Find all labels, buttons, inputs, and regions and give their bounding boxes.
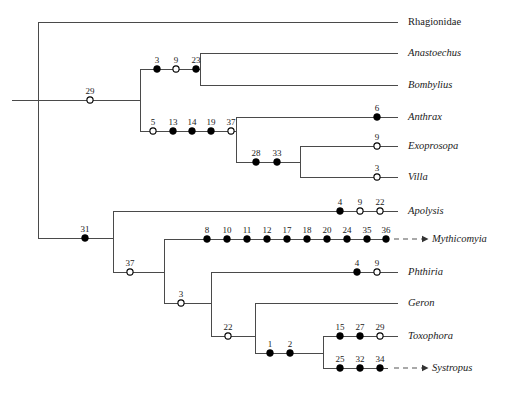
filled-circle-icon [364, 236, 371, 243]
character-node-18[interactable]: 18 [303, 225, 313, 243]
character-number-label: 9 [375, 258, 380, 268]
arrow-head-icon-mythicomyia [422, 236, 429, 242]
filled-circle-icon [354, 269, 361, 276]
taxon-label-villa: Villa [408, 171, 428, 182]
character-number-label: 3 [179, 289, 184, 299]
filled-circle-icon [253, 159, 260, 166]
character-node-9[interactable]: 9 [374, 258, 380, 276]
taxon-label-toxophora: Toxophora [408, 330, 453, 341]
filled-circle-icon [189, 128, 196, 135]
character-number-label: 33 [273, 148, 283, 158]
filled-circle-icon [377, 365, 384, 372]
character-node-29[interactable]: 29 [86, 86, 96, 104]
arrow-head-icon-systropus [422, 365, 429, 371]
character-number-label: 32 [356, 354, 365, 364]
filled-circle-icon [204, 236, 211, 243]
character-node-36[interactable]: 36 [382, 225, 392, 243]
character-node-4[interactable]: 4 [354, 258, 361, 276]
character-node-3[interactable]: 3 [374, 163, 380, 181]
character-node-35[interactable]: 35 [363, 225, 373, 243]
filled-circle-icon [170, 128, 177, 135]
character-number-label: 9 [358, 197, 363, 207]
open-circle-icon [225, 333, 231, 339]
character-number-label: 10 [223, 225, 233, 235]
character-node-group: 2939235131419376283393314922810111217182… [81, 55, 392, 372]
character-node-33[interactable]: 33 [273, 148, 283, 166]
filled-circle-icon [208, 128, 215, 135]
filled-circle-icon [267, 350, 274, 357]
filled-circle-icon [304, 236, 311, 243]
character-number-label: 9 [174, 55, 179, 65]
taxon-label-bombylius: Bombylius [408, 79, 452, 90]
character-node-31[interactable]: 31 [81, 224, 90, 242]
character-node-17[interactable]: 17 [283, 225, 293, 243]
character-node-5[interactable]: 5 [150, 117, 156, 135]
character-node-29[interactable]: 29 [376, 322, 386, 340]
character-node-11[interactable]: 11 [243, 225, 252, 243]
tree-canvas: 2939235131419376283393314922810111217182… [0, 0, 516, 394]
character-number-label: 5 [151, 117, 156, 127]
character-node-25[interactable]: 25 [336, 354, 346, 372]
character-number-label: 29 [376, 322, 386, 332]
open-circle-icon [374, 174, 380, 180]
character-node-1[interactable]: 1 [267, 339, 274, 357]
filled-circle-icon [383, 236, 390, 243]
character-number-label: 1 [268, 339, 273, 349]
character-number-label: 9 [375, 132, 380, 142]
character-node-28[interactable]: 28 [252, 148, 262, 166]
character-node-8[interactable]: 8 [204, 225, 211, 243]
character-node-3[interactable]: 3 [154, 55, 161, 73]
character-node-9[interactable]: 9 [374, 132, 380, 150]
character-number-label: 19 [207, 117, 217, 127]
character-number-label: 8 [205, 225, 210, 235]
open-circle-icon [357, 208, 363, 214]
character-node-23[interactable]: 23 [192, 55, 202, 73]
character-node-9[interactable]: 9 [357, 197, 363, 215]
character-node-15[interactable]: 15 [336, 322, 346, 340]
open-circle-icon [228, 128, 234, 134]
character-number-label: 29 [86, 86, 96, 96]
taxon-label-anastoechus: Anastoechus [407, 47, 461, 58]
character-node-14[interactable]: 14 [188, 117, 198, 135]
character-node-34[interactable]: 34 [376, 354, 386, 372]
character-node-22[interactable]: 22 [224, 322, 233, 340]
taxon-label-group: RhagionidaeAnastoechusBombyliusAnthraxEx… [407, 16, 487, 373]
character-number-label: 34 [376, 354, 386, 364]
taxon-label-phthiria: Phthiria [407, 266, 443, 277]
character-node-9[interactable]: 9 [173, 55, 179, 73]
character-number-label: 17 [283, 225, 293, 235]
filled-circle-icon [337, 333, 344, 340]
filled-circle-icon [224, 236, 231, 243]
character-node-10[interactable]: 10 [223, 225, 233, 243]
character-node-2[interactable]: 2 [287, 339, 294, 357]
character-number-label: 37 [227, 117, 237, 127]
open-circle-icon [377, 208, 383, 214]
character-node-19[interactable]: 19 [207, 117, 217, 135]
character-number-label: 4 [355, 258, 360, 268]
character-node-20[interactable]: 20 [323, 225, 333, 243]
character-node-22[interactable]: 22 [376, 197, 385, 215]
character-node-4[interactable]: 4 [337, 197, 344, 215]
character-node-13[interactable]: 13 [169, 117, 179, 135]
filled-circle-icon [154, 66, 161, 73]
character-number-label: 3 [375, 163, 380, 173]
open-circle-icon [127, 269, 133, 275]
character-node-24[interactable]: 24 [343, 225, 353, 243]
character-number-label: 13 [169, 117, 179, 127]
character-number-label: 31 [81, 224, 90, 234]
character-node-37[interactable]: 37 [227, 117, 237, 135]
character-number-label: 2 [288, 339, 293, 349]
character-node-6[interactable]: 6 [374, 103, 381, 121]
open-circle-icon [377, 333, 383, 339]
character-node-27[interactable]: 27 [356, 322, 366, 340]
character-node-3[interactable]: 3 [178, 289, 184, 307]
character-number-label: 14 [188, 117, 198, 127]
filled-circle-icon [287, 350, 294, 357]
filled-circle-icon [337, 365, 344, 372]
character-node-32[interactable]: 32 [356, 354, 365, 372]
character-node-12[interactable]: 12 [263, 225, 272, 243]
character-number-label: 25 [336, 354, 346, 364]
filled-circle-icon [193, 66, 200, 73]
character-node-37[interactable]: 37 [126, 258, 136, 276]
open-circle-icon [374, 269, 380, 275]
